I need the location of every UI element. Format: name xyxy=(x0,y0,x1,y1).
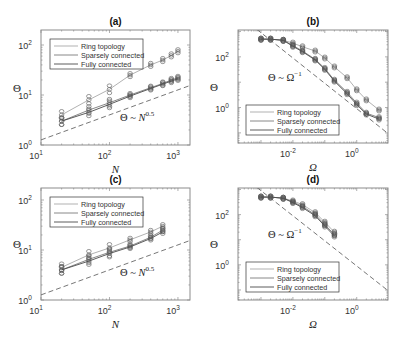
legend-label: Ring topology xyxy=(277,265,321,274)
legend: Ring topologySparsely connectedFully con… xyxy=(246,105,340,135)
y-axis-label: Θ xyxy=(210,238,218,250)
panel-title: (c) xyxy=(109,174,121,185)
x-tick-label: 100 xyxy=(345,304,359,316)
legend-label: Ring topology xyxy=(81,42,125,51)
x-tick-label: 101 xyxy=(29,149,43,161)
y-tick-label: 102 xyxy=(18,39,32,51)
panel-d: 10-2100100102(d)ΩΘΘ ~ Ω−1Ring topologySp… xyxy=(210,174,389,330)
legend-label: Fully connected xyxy=(277,283,327,292)
legend-label: Fully connected xyxy=(277,126,327,135)
panel-title: (d) xyxy=(307,174,320,185)
legend-label: Ring topology xyxy=(81,200,125,209)
y-tick-label: 100 xyxy=(18,294,32,306)
y-tick-label: 100 xyxy=(18,139,32,151)
y-axis-label: Θ xyxy=(13,238,21,250)
legend: Ring topologySparsely connectedFully con… xyxy=(246,262,340,292)
y-tick-label: 102 xyxy=(215,51,229,63)
x-tick-label: 102 xyxy=(98,149,112,161)
x-tick-label: 100 xyxy=(345,147,359,159)
y-axis-label: Θ xyxy=(210,81,218,93)
legend: Ring topologySparsely connectedFully con… xyxy=(50,39,144,69)
x-tick-label: 102 xyxy=(98,304,112,316)
legend-label: Sparsely connected xyxy=(277,117,340,126)
panel-c: 101102103100101102(c)NΘΘ ~ N0.5Ring topo… xyxy=(13,174,190,330)
x-axis-label: N xyxy=(111,318,120,330)
y-axis-label: Θ xyxy=(13,82,21,94)
x-axis-label: Ω xyxy=(309,161,317,173)
x-tick-label: 10-2 xyxy=(280,147,296,159)
x-axis-label: Ω xyxy=(309,318,317,330)
x-tick-label: 103 xyxy=(166,304,180,316)
panel-title: (a) xyxy=(109,16,121,27)
legend: Ring topologySparsely connectedFully con… xyxy=(50,197,144,227)
x-tick-label: 101 xyxy=(29,304,43,316)
legend-label: Fully connected xyxy=(81,60,131,69)
y-tick-label: 102 xyxy=(18,194,32,206)
y-tick-label: 100 xyxy=(215,259,229,271)
x-tick-label: 10-2 xyxy=(280,304,296,316)
legend-label: Ring topology xyxy=(277,108,321,117)
panel-b: 10-2100100102(b)ΩΘΘ ~ Ω−1Ring topologySp… xyxy=(210,16,389,173)
legend-label: Sparsely connected xyxy=(81,51,144,60)
legend-label: Fully connected xyxy=(81,218,131,227)
panel-title: (b) xyxy=(307,16,320,27)
panel-a: 101102103100101102(a)NΘΘ ~ N0.5Ring topo… xyxy=(13,16,190,175)
x-tick-label: 103 xyxy=(166,149,180,161)
legend-label: Sparsely connected xyxy=(277,274,340,283)
y-tick-label: 100 xyxy=(215,102,229,114)
y-tick-label: 102 xyxy=(215,209,229,221)
figure: 101102103100101102(a)NΘΘ ~ N0.5Ring topo… xyxy=(0,0,402,343)
legend-label: Sparsely connected xyxy=(81,209,144,218)
